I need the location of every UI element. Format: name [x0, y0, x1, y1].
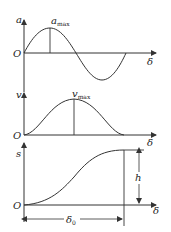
- cam-motion-diagram: a O δ amax v O δ vmax s O δ h δ0: [0, 0, 171, 232]
- s-origin-label: O: [13, 200, 21, 211]
- s-axis-label: s: [16, 148, 21, 159]
- a-axis-label: a: [16, 14, 22, 25]
- h-label: h: [135, 172, 141, 183]
- a-x-label: δ: [147, 56, 153, 67]
- v-origin-label: O: [13, 130, 21, 141]
- s-x-label: δ: [153, 205, 159, 216]
- v-axis-label: v: [16, 89, 22, 100]
- acceleration-panel: a O δ amax: [13, 14, 156, 92]
- displacement-panel: s O δ h δ0: [13, 143, 159, 226]
- velocity-panel: v O δ vmax: [13, 88, 156, 148]
- v-x-label: δ: [147, 137, 153, 148]
- acceleration-curve: [24, 28, 126, 80]
- a-origin-label: O: [13, 48, 21, 59]
- a-max-label: amax: [51, 15, 70, 27]
- v-max-label: vmax: [72, 88, 91, 100]
- displacement-curve: [24, 150, 124, 205]
